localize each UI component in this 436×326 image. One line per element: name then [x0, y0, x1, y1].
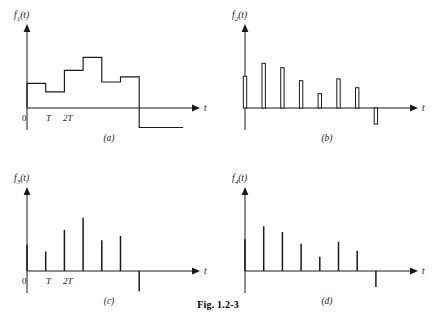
panel-d-plot: f4(t) t	[218, 163, 436, 313]
tick-label-0: 0	[22, 276, 27, 286]
pulse-bar	[318, 94, 321, 108]
panel-a-caption: (a)	[0, 133, 218, 143]
pulse-bar	[262, 63, 265, 108]
x-axis-label: t	[204, 103, 207, 113]
x-axis-label: t	[422, 103, 425, 113]
panel-a-plot: f1(t) t 0 T 2T	[0, 0, 218, 150]
y-axis-label: f1(t)	[14, 10, 29, 23]
y-axis-arrowhead	[242, 24, 249, 32]
x-axis-arrowhead	[410, 105, 418, 112]
pulse-bar	[337, 79, 340, 108]
tick-label-T: T	[46, 276, 52, 286]
figure-1-2-3: f1(t) t 0 T 2T (a) f2(t) t (b)	[0, 0, 436, 326]
x-axis-label: t	[204, 266, 207, 276]
panel-c-impulses	[27, 218, 139, 292]
panel-d-axes	[242, 187, 418, 293]
x-axis-arrowhead	[192, 105, 200, 112]
figure-caption: Fig. 1.2-3	[0, 299, 436, 310]
panel-c-plot: f3(t) t 0 T 2T	[0, 163, 218, 313]
pulse-bar	[374, 108, 377, 124]
panel-b-plot: f2(t) t	[218, 0, 436, 150]
x-axis-label: t	[422, 266, 425, 276]
y-axis-arrowhead	[24, 24, 31, 32]
panel-b-axes	[242, 24, 418, 130]
pulse-bar	[281, 68, 284, 108]
panel-b-caption: (b)	[218, 133, 436, 143]
panel-d-impulses	[245, 226, 376, 287]
panel-b-pulses	[243, 63, 377, 124]
tick-label-T: T	[46, 113, 52, 123]
panel-b-pulse-train: f2(t) t (b)	[218, 0, 436, 150]
y-axis-arrowhead	[24, 187, 31, 195]
panel-c-impulse-train: f3(t) t 0 T 2T (c)	[0, 163, 218, 313]
panel-a-staircase: f1(t) t 0 T 2T (a)	[0, 0, 218, 150]
tick-label-2T: 2T	[63, 113, 74, 123]
pulse-bar	[243, 76, 246, 108]
y-axis-label: f3(t)	[14, 173, 29, 186]
pulse-bar	[299, 81, 302, 108]
tick-label-2T: 2T	[63, 276, 74, 286]
pulse-bar	[356, 88, 359, 108]
x-axis-arrowhead	[410, 268, 418, 275]
tick-label-0: 0	[22, 113, 27, 123]
x-axis-arrowhead	[192, 268, 200, 275]
panel-d-impulse-train: f4(t) t (d)	[218, 163, 436, 313]
y-axis-label: f4(t)	[232, 173, 247, 186]
y-axis-arrowhead	[242, 187, 249, 195]
y-axis-label: f2(t)	[232, 10, 247, 23]
